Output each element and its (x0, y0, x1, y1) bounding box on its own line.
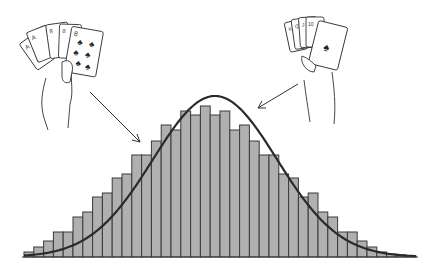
histogram-bar (171, 130, 181, 257)
histogram-bar (259, 155, 269, 257)
histogram-bar (191, 115, 201, 257)
histogram-bar (298, 197, 308, 257)
histogram-bar (112, 178, 122, 257)
right-arrow-icon (258, 84, 298, 108)
histogram-bar (181, 111, 191, 257)
histogram-bar (230, 130, 240, 257)
histogram-bar (249, 141, 259, 257)
histogram-bars (24, 106, 416, 257)
histogram-bar (279, 174, 289, 257)
histogram-bar (200, 106, 210, 257)
histogram-bar (73, 217, 83, 257)
histogram-bar (53, 232, 63, 257)
svg-text:10: 10 (308, 21, 314, 27)
histogram-bar (240, 125, 250, 257)
histogram-bar (328, 217, 338, 257)
histogram-bar (308, 193, 318, 257)
histogram-bar (132, 155, 142, 257)
histogram-bar (63, 232, 73, 257)
histogram-bar (44, 241, 54, 257)
right-hand-with-cards-icon: K Q J 10 ♠ (284, 16, 348, 124)
left-hand-with-cards-icon: A A 8 8 8 ♣♣ ♣♣ ♣♣ (19, 22, 103, 130)
histogram-bar (210, 115, 220, 257)
bell-curve-illustration: A A 8 8 8 ♣♣ ♣♣ ♣♣ K Q J 10 ♠ (0, 0, 439, 275)
histogram-bar (220, 111, 230, 257)
histogram-bar (122, 174, 132, 257)
histogram-bar (269, 155, 279, 257)
left-arrow-icon (90, 92, 140, 142)
